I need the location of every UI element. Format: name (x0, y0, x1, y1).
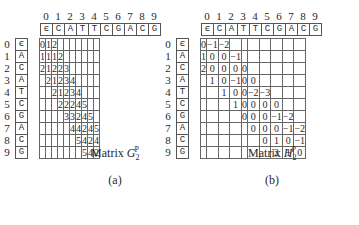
matrix-cell: 4 (70, 123, 76, 135)
sequence-char: T (77, 24, 89, 35)
matrix-cell: −1 (230, 75, 242, 87)
sequence-char: T (238, 24, 250, 35)
matrix-cell: 2 (64, 99, 70, 111)
side-sequence-a: ϵACATCGACG (15, 38, 28, 159)
matrix-cell: 1 (40, 51, 46, 63)
matrix-g: 0121112212232123421234222453324544245542… (39, 38, 100, 159)
sequence-char: G (113, 24, 125, 35)
row-index: 4 (163, 86, 173, 98)
matrix-cell: 0 (247, 99, 259, 111)
matrix-cell: 4 (76, 99, 82, 111)
matrix-cell: 0 (40, 39, 46, 51)
label-b: (b) (207, 173, 337, 188)
matrix-row: 33245 (40, 111, 100, 123)
matrix-cell: 2 (58, 99, 64, 111)
matrix-cell (94, 87, 100, 99)
matrix-cell: 3 (70, 111, 76, 123)
matrix-cell: 3 (64, 111, 70, 123)
matrix-cell: 2 (76, 111, 82, 123)
sequence-char: T (177, 87, 188, 99)
row-index: 7 (2, 122, 12, 134)
matrix-cell (94, 51, 100, 63)
matrix-row: 012 (40, 39, 100, 51)
sequence-char: C (262, 24, 274, 35)
matrix-cell: 2 (64, 87, 70, 99)
matrix-cell (207, 111, 219, 123)
matrix-row: 21234 (40, 75, 100, 87)
row-indices-a: 0123456789 (2, 38, 12, 158)
matrix-cell: 3 (70, 87, 76, 99)
column-index: 8 (297, 10, 309, 22)
sequence-char: A (226, 24, 238, 35)
matrix-cell (94, 75, 100, 87)
matrix-cell: 2 (40, 63, 46, 75)
column-index: 4 (88, 10, 100, 22)
caption-a: Matrix G2P (50, 145, 180, 162)
matrix-cell: 4 (76, 87, 82, 99)
matrix-cell (282, 63, 294, 75)
matrix-cell: 4 (76, 123, 82, 135)
matrix-cell: −2 (218, 39, 230, 51)
sequence-char: C (137, 24, 149, 35)
matrix-cell (94, 99, 100, 111)
matrix-cell: 0 (201, 39, 207, 51)
matrix-cell (282, 39, 294, 51)
sequence-char: C (16, 135, 27, 147)
matrix-cell: 0 (207, 51, 219, 63)
matrix-cell: 4 (70, 75, 76, 87)
matrix-cell: −1 (207, 39, 219, 51)
row-index: 2 (163, 62, 173, 74)
row-index: 8 (2, 134, 12, 146)
matrix-cell: 2 (58, 51, 64, 63)
sequence-char: A (125, 24, 137, 35)
row-index: 0 (163, 38, 173, 50)
matrix-cell (271, 63, 283, 75)
matrix-cell: 0 (207, 63, 219, 75)
matrix-cell: 0 (230, 63, 242, 75)
matrix-row: 21223 (40, 63, 100, 75)
matrix-cell: 0 (241, 111, 247, 123)
row-index: 9 (163, 146, 173, 158)
sequence-char: ϵ (177, 39, 188, 51)
sequence-char: C (214, 24, 226, 35)
matrix-cell: 2 (201, 63, 207, 75)
caption-prefix: Matrix (248, 146, 284, 160)
matrix-cell: 2 (82, 123, 88, 135)
matrix-cell (294, 111, 306, 123)
matrix-cell: 1 (207, 75, 219, 87)
matrix-cell (207, 123, 219, 135)
sequence-char: A (177, 123, 188, 135)
matrix-h: 0−1−2100−12000010−100100−2−310000000−1−2… (200, 38, 306, 159)
matrix-cell: −2 (294, 123, 306, 135)
matrix-cell (230, 123, 242, 135)
matrix-cell: 4 (88, 123, 94, 135)
matrix-cell: 0 (241, 63, 247, 75)
top-sequence-a: ϵCATTCGACG (40, 23, 161, 36)
matrix-cell (207, 87, 219, 99)
row-index: 7 (163, 122, 173, 134)
column-index: 1 (52, 10, 64, 22)
sequence-char: C (16, 99, 27, 111)
caption-sub: 2 (292, 153, 296, 162)
row-index: 3 (2, 74, 12, 86)
sequence-char: T (89, 24, 101, 35)
column-index: 4 (249, 10, 261, 22)
sequence-char: ϵ (202, 24, 214, 35)
column-indices-b: 0123456789 (201, 10, 321, 22)
column-index: 6 (273, 10, 285, 22)
sequence-char: A (286, 24, 298, 35)
column-index: 3 (76, 10, 88, 22)
matrix-cell (294, 75, 306, 87)
matrix-cell (247, 63, 259, 75)
sequence-char: G (310, 24, 321, 35)
matrix-cell (282, 51, 294, 63)
matrix-row: 22245 (40, 99, 100, 111)
matrix-cell (294, 99, 306, 111)
column-index: 7 (124, 10, 136, 22)
top-sequence-b: ϵCATTCGACG (201, 23, 322, 36)
matrix-cell (282, 75, 294, 87)
matrix-cell: −1 (271, 111, 283, 123)
matrix-cell (294, 51, 306, 63)
sequence-char: C (16, 63, 27, 75)
matrix-row: 1112 (40, 51, 100, 63)
